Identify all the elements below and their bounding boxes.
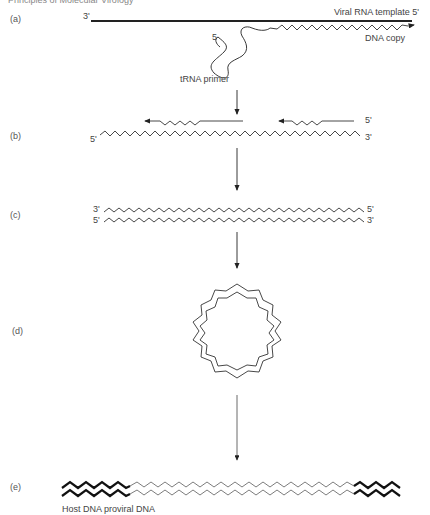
host-dna-right-bottom [354,490,400,496]
host-dna-left-top [62,482,130,488]
host-proviral-dna-caption: Host DNA proviral DNA [62,504,155,514]
step-label-b: (b) [10,131,21,141]
top-strand-5-prime-label: 5' [367,204,374,214]
trna-primer-label: tRNA primer [180,74,229,84]
step-label-c: (c) [10,210,21,220]
panel-d [193,284,281,378]
host-dna-left-bottom [62,490,130,496]
step-label-e: (e) [10,482,21,492]
minus-strand-dna [100,131,360,136]
ds-dna-top-strand [104,208,364,212]
strand-3-prime-label: 3' [365,132,372,142]
circular-dna-inner-strand [200,292,274,370]
rna-3-prime-label: 3' [83,11,90,21]
circular-dna-outer-strand [193,284,281,378]
plus-strand-fragment-right [279,121,354,125]
step-label-d: (d) [12,326,23,336]
viral-rna-template-label: Viral RNA template 5' [334,7,419,17]
panel-b: 5' 5' 3' [90,115,372,144]
fragment-5-prime-label: 5' [365,115,372,125]
host-dna-right-top [354,482,400,488]
bottom-strand-3-prime-label: 3' [367,215,374,225]
page-header-partial: Principles of Molecular Virology [8,0,134,5]
step-label-a: (a) [10,14,21,24]
proviral-dna-bottom [130,490,354,495]
panel-e: Host DNA proviral DNA [62,482,400,514]
reverse-transcription-diagram: Principles of Molecular Virology (a) (b)… [0,0,430,515]
proviral-dna-top [130,482,354,487]
dna-copy-label: DNA copy [365,33,406,43]
ds-dna-bottom-strand [104,218,364,222]
panel-c: 3' 5' 5' 3' [93,204,374,225]
plus-strand-fragment-left [145,121,243,125]
trna-primer-shape [211,27,277,78]
strand-5-prime-label: 5' [90,134,97,144]
dna-copy-strand [277,25,414,30]
bottom-strand-5-prime-label: 5' [93,215,100,225]
trna-5-label: 5 [212,32,217,42]
panel-a: 3' Viral RNA template 5' DNA copy 5 tRNA… [83,7,419,84]
top-strand-3-prime-label: 3' [93,204,100,214]
